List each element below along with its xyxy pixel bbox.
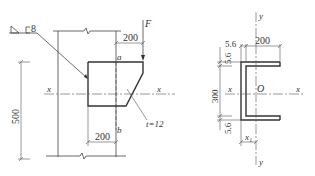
height-dim-label: 500 <box>10 109 21 124</box>
bracket-plate <box>88 62 143 106</box>
weld-size-label: 8 <box>31 23 36 34</box>
fillet-weld-icon <box>11 26 19 33</box>
point-a-label: a <box>117 52 122 62</box>
top-dim-label: 200 <box>123 32 138 43</box>
x-axis-left-label: x <box>46 84 51 94</box>
bracket-elevation: 8 F 200 200 a b x x t=12 500 <box>9 18 175 161</box>
point-b-label: b <box>117 125 122 135</box>
bottom-flange-label: 5.6 <box>223 122 233 134</box>
y-axis-bottom-label: y <box>258 157 263 167</box>
x-axis-right-label-right: x <box>295 84 300 94</box>
force-label: F <box>144 18 152 29</box>
centroid-label: x₁ <box>244 132 252 142</box>
channel-section: y y x x O 200 5.6 5.6 300 5.6 x₁ <box>210 11 305 167</box>
web-thickness-label: 5.6 <box>225 39 237 49</box>
top-flange-label: 5.6 <box>223 52 233 64</box>
y-axis-top-label: y <box>258 11 263 21</box>
top-break-line <box>53 28 121 34</box>
diagram-canvas: 8 F 200 200 a b x x t=12 500 <box>0 0 315 176</box>
bottom-dim-label: 200 <box>95 131 110 142</box>
section-height-label: 300 <box>210 89 220 103</box>
origin-label: O <box>257 83 264 94</box>
thickness-label: t=12 <box>146 119 164 129</box>
force-arrowhead <box>141 55 145 61</box>
x-axis-right-label: x <box>156 84 161 94</box>
x-axis-left-label-right: x <box>227 84 232 94</box>
flange-width-label: 200 <box>255 35 270 46</box>
three-side-weld-icon <box>26 27 30 33</box>
thickness-leader <box>127 89 147 120</box>
